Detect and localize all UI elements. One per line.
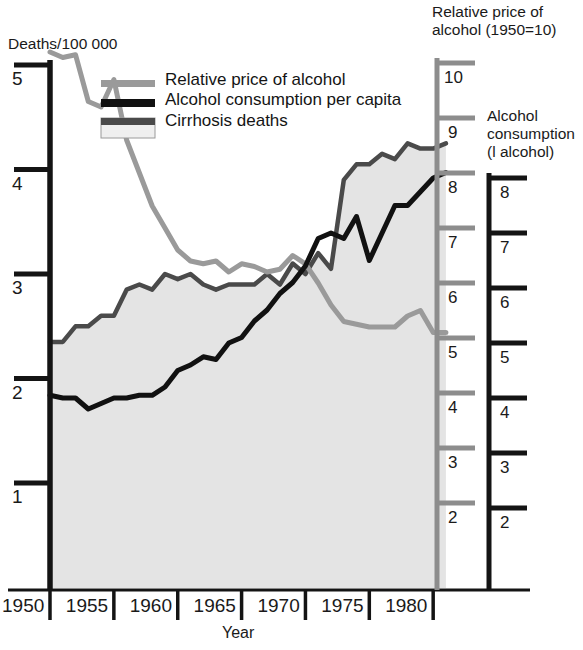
right-gray-tick-label-7: 7 bbox=[448, 234, 457, 252]
right-black-tick-label-2: 2 bbox=[500, 514, 509, 532]
chart-figure: Deaths/100 000 Relative price of alcohol… bbox=[0, 0, 583, 650]
x-tick-label-1980: 1980 bbox=[385, 596, 427, 617]
right-black-tick-label-8: 8 bbox=[500, 184, 509, 202]
right-gray-axis-title-line1: Relative price of bbox=[432, 4, 543, 21]
right-black-axis-title-line2: consumption bbox=[487, 126, 575, 143]
x-tick-label-1950: 1950 bbox=[2, 596, 44, 617]
right-black-axis-title-line1: Alcohol bbox=[487, 108, 538, 125]
x-tick-label-1960: 1960 bbox=[130, 596, 172, 617]
legend-swatch-alcohol-consumption bbox=[101, 99, 155, 107]
x-tick-label-1970: 1970 bbox=[257, 596, 299, 617]
x-tick-label-1955: 1955 bbox=[66, 596, 108, 617]
left-tick-label-1: 1 bbox=[12, 487, 23, 508]
right-gray-tick-label-5: 5 bbox=[448, 344, 457, 362]
right-black-tick-label-5: 5 bbox=[500, 349, 509, 367]
legend-swatch-cirrhosis-deaths bbox=[101, 118, 155, 138]
legend-label-alcohol-consumption: Alcohol consumption per capita bbox=[165, 91, 401, 109]
x-tick-label-1975: 1975 bbox=[321, 596, 363, 617]
right-gray-tick-label-6: 6 bbox=[448, 289, 457, 307]
left-tick-label-3: 3 bbox=[12, 278, 23, 299]
right-black-tick-label-7: 7 bbox=[500, 239, 509, 257]
right-gray-axis-title-line2: alcohol (1950=10) bbox=[432, 22, 557, 39]
left-tick-label-4: 4 bbox=[12, 174, 23, 195]
right-gray-tick-label-2: 2 bbox=[448, 509, 457, 527]
right-gray-tick-label-9: 9 bbox=[448, 124, 457, 142]
right-black-axis-title-line3: (l alcohol) bbox=[487, 144, 554, 161]
right-black-tick-label-6: 6 bbox=[500, 294, 509, 312]
left-axis-ticks bbox=[14, 65, 50, 483]
cirrhosis-deaths-area bbox=[50, 143, 446, 588]
legend-label-relative-price: Relative price of alcohol bbox=[165, 71, 345, 89]
right-black-tick-label-4: 4 bbox=[500, 404, 509, 422]
right-gray-tick-label-8: 8 bbox=[448, 179, 457, 197]
left-tick-label-2: 2 bbox=[12, 383, 23, 404]
x-tick-label-1965: 1965 bbox=[194, 596, 236, 617]
legend-label-cirrhosis-deaths: Cirrhosis deaths bbox=[165, 112, 288, 130]
right-black-tick-label-3: 3 bbox=[500, 459, 509, 477]
x-axis-label: Year bbox=[222, 624, 254, 641]
legend-swatch-relative-price bbox=[101, 80, 155, 87]
right-gray-tick-label-3: 3 bbox=[448, 454, 457, 472]
right-gray-tick-label-4: 4 bbox=[448, 399, 457, 417]
right-gray-tick-label-10: 10 bbox=[444, 69, 463, 87]
left-axis-title: Deaths/100 000 bbox=[8, 36, 117, 53]
left-tick-label-5: 5 bbox=[12, 69, 23, 90]
